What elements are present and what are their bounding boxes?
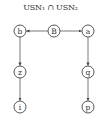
node-label: a bbox=[86, 27, 91, 36]
node-a: a bbox=[82, 25, 94, 37]
node-B: B bbox=[48, 25, 60, 37]
edges-group bbox=[20, 31, 88, 101]
node-q: q bbox=[82, 66, 94, 78]
node-label: z bbox=[18, 68, 22, 77]
node-label: p bbox=[86, 103, 91, 112]
node-b: b bbox=[14, 25, 26, 37]
node-label: b bbox=[18, 27, 23, 36]
node-p: p bbox=[82, 101, 94, 113]
node-i: i bbox=[14, 101, 26, 113]
node-label: B bbox=[51, 27, 57, 36]
graph-canvas: bBazqip bbox=[0, 0, 101, 120]
node-z: z bbox=[14, 66, 26, 78]
node-label: q bbox=[86, 68, 91, 77]
nodes-group: bBazqip bbox=[14, 25, 94, 113]
